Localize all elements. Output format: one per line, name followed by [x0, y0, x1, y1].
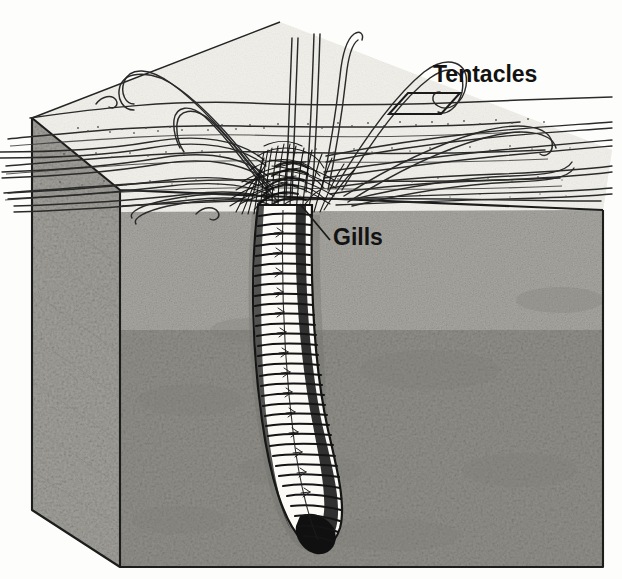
tentacles-label-text: Tentacles [433, 61, 537, 87]
gills-label-text: Gills [333, 224, 383, 250]
sediment-front-face [115, 205, 610, 575]
illustration-figure: Tentacles Gills [0, 0, 622, 579]
lugworm-diagram-svg: Tentacles Gills [0, 0, 622, 579]
